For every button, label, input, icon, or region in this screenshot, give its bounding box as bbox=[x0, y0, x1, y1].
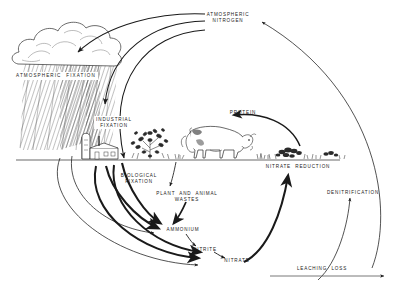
edge-ammonium-to-nitrite bbox=[186, 234, 196, 246]
label-ammonium: AMMONIUM bbox=[167, 227, 200, 233]
label-protein: PROTEIN bbox=[230, 110, 256, 116]
label-nitrate-reduction: NITRATE REDUCTION bbox=[266, 164, 330, 170]
diagram-canvas bbox=[0, 0, 397, 285]
edge-biological-fixation-to-ammonium bbox=[122, 163, 160, 223]
grazing-cow bbox=[181, 126, 256, 158]
edge-nitrate-to-nitrate-reduction bbox=[244, 176, 288, 262]
nitrogen-cycle-diagram: ATMOSPHERIC NITROGEN ATMOSPHERIC FIXATIO… bbox=[0, 0, 397, 285]
edge-nitrite-to-nitrate bbox=[214, 252, 225, 258]
edge-protein-to-wastes bbox=[170, 162, 176, 186]
edge-denitrification-to-atmospheric-nitrogen bbox=[262, 22, 381, 268]
label-nitrite: NITRITE bbox=[193, 247, 217, 253]
label-industrial-fixation: INDUSTRIAL FIXATION bbox=[94, 116, 134, 129]
grass-tuft-left bbox=[175, 154, 184, 159]
label-nitrate: NITRATE bbox=[224, 258, 249, 264]
label-leaching-loss: LEACHING LOSS bbox=[297, 266, 347, 272]
legume-shrub bbox=[131, 128, 169, 159]
label-denitrification: DENITRIFICATION bbox=[327, 190, 379, 196]
label-biological-fixation: BIOLOGICAL FIXATION bbox=[121, 173, 157, 184]
edge-wastes-to-ammonium bbox=[174, 202, 186, 223]
rain-cloud bbox=[12, 22, 121, 66]
label-atmospheric-nitrogen: ATMOSPHERIC NITROGEN bbox=[207, 12, 250, 23]
grass-tuft-right bbox=[257, 148, 345, 160]
arc-group-nitrification bbox=[186, 234, 225, 258]
label-plant-and-animal-wastes: PLANT AND ANIMAL WASTES bbox=[156, 191, 217, 202]
label-atmospheric-fixation: ATMOSPHERIC FIXATION bbox=[14, 72, 98, 80]
